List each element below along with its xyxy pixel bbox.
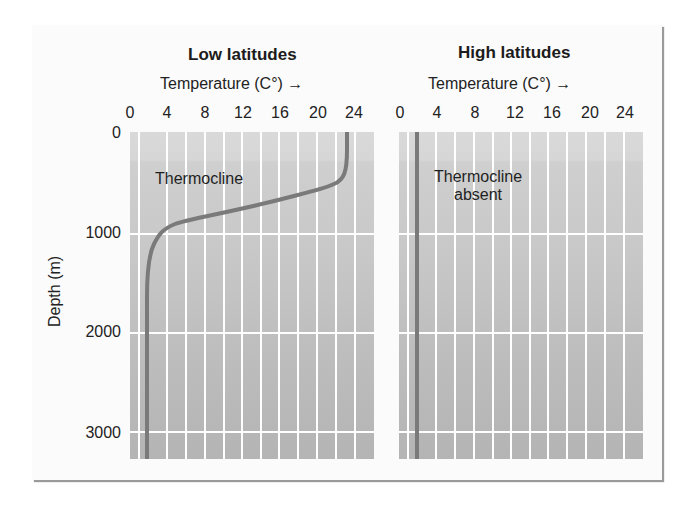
thermocline-absent-label: Thermocline absent [434,168,522,204]
left-x-tick: 12 [234,104,252,122]
right-x-tick: 24 [616,104,634,122]
left-x-tick: 8 [201,104,210,122]
thermocline-label: Thermocline [155,170,243,188]
right-chart-title: High latitudes [458,43,570,63]
y-tick: 0 [61,124,121,142]
y-axis-label: Depth (m) [46,256,64,327]
right-x-axis-label: Temperature (C°) → [428,75,571,93]
right-chart-plot: Thermocline absent [399,132,643,459]
y-tick: 2000 [61,323,121,341]
thermocline-absent-line1: Thermocline [434,168,522,186]
y-tick: 1000 [61,224,121,242]
left-x-tick: 20 [309,104,327,122]
left-x-tick: 0 [126,104,135,122]
left-x-tick: 4 [163,104,172,122]
left-chart-title: Low latitudes [188,45,297,65]
right-x-tick: 20 [581,104,599,122]
right-x-tick: 4 [433,104,442,122]
left-x-axis-label: Temperature (C°) → [160,75,303,93]
left-chart-plot: Thermocline [130,132,374,459]
right-x-tick: 16 [543,104,561,122]
thermocline-absent-line2: absent [434,186,522,204]
right-x-tick: 8 [471,104,480,122]
right-x-tick: 0 [396,104,405,122]
y-tick: 3000 [61,424,121,442]
left-x-tick: 24 [345,104,363,122]
left-x-tick: 16 [271,104,289,122]
right-x-tick: 12 [506,104,524,122]
